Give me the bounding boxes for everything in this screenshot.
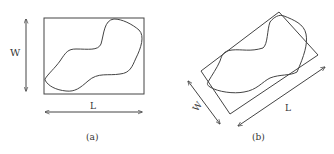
panel-b: W L (b) — [188, 12, 325, 142]
caption-b: (b) — [252, 132, 265, 142]
caption-a: (a) — [86, 132, 98, 142]
blob-shape-a — [45, 19, 142, 91]
diagram-canvas: W L (a) W L (b) — [0, 0, 334, 154]
length-label-b: L — [285, 103, 291, 113]
panel-a: W L (a) — [10, 18, 144, 142]
bounding-rectangle-a — [44, 18, 144, 94]
width-label-a: W — [10, 47, 21, 58]
width-arrow-b — [188, 81, 220, 124]
blob-shape-b — [207, 15, 306, 92]
width-label-b: W — [191, 99, 205, 113]
length-label-a: L — [90, 101, 96, 111]
